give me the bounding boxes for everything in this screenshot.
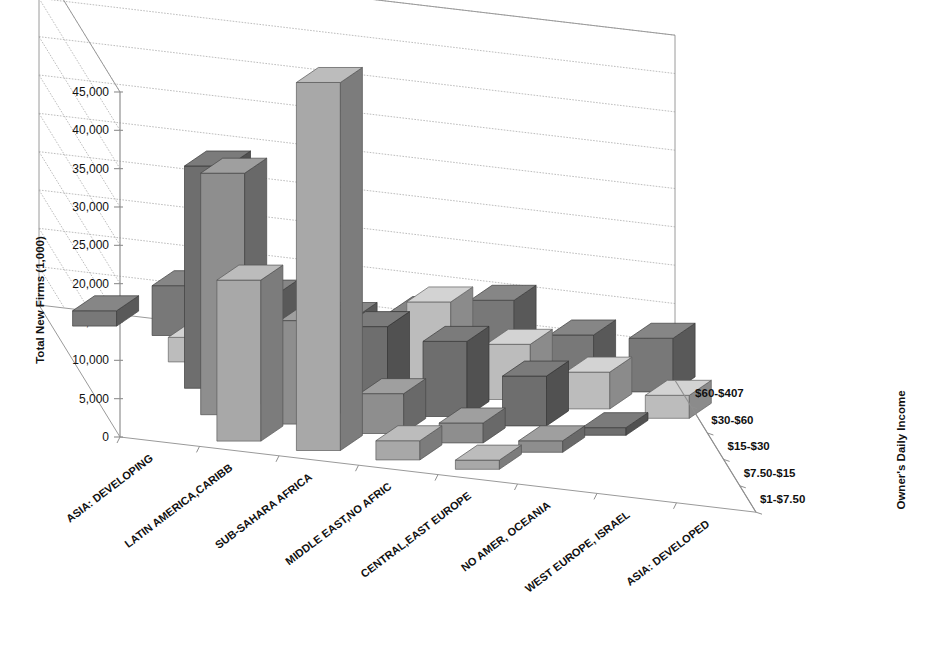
bar [296, 67, 362, 450]
y-tick-label: 10,000 [72, 353, 109, 367]
x-axis-category-label: NO AMER, OCEANIA [459, 499, 553, 574]
y-axis-title: Total New Firms (1,000) [34, 236, 46, 364]
depth-axis-series-label: $15-$30 [728, 440, 770, 452]
depth-axis-series-label: $60-$407 [695, 387, 744, 399]
x-axis-category-label: ASIA: DEVELOPING [64, 452, 155, 525]
bar [503, 361, 569, 426]
depth-axis-series-label: $7.50-$15 [744, 467, 796, 479]
y-tick-label: 0 [102, 430, 109, 444]
y-tick-label: 40,000 [72, 123, 109, 137]
bar [360, 379, 426, 434]
depth-axis-series-label: $30-$60 [711, 414, 753, 426]
x-axis-category-label: SUB-SAHARA AFRICA [213, 470, 314, 550]
x-axis-category-label: ASIA: DEVELOPED [624, 517, 712, 587]
chart-container: 05,00010,00015,00020,00025,00030,00035,0… [0, 0, 933, 645]
three-d-bar-chart: 05,00010,00015,00020,00025,00030,00035,0… [0, 0, 933, 645]
y-tick-label: 35,000 [72, 162, 109, 176]
y-tick-label: 20,000 [72, 277, 109, 291]
bar [217, 265, 283, 441]
bar [423, 326, 489, 416]
x-axis-category-label: WEST EUROPE, ISRAEL [523, 508, 632, 595]
z-axis-title: Owner's Daily Income [895, 390, 907, 509]
y-tick-label: 5,000 [79, 392, 109, 406]
x-axis-category-label: MIDDLE EAST,NO AFRIC [283, 480, 393, 567]
y-tick-label: 30,000 [72, 200, 109, 214]
depth-axis-series-label: $1-$7.50 [760, 493, 805, 505]
y-tick-label: 45,000 [72, 85, 109, 99]
y-tick-label: 25,000 [72, 238, 109, 252]
